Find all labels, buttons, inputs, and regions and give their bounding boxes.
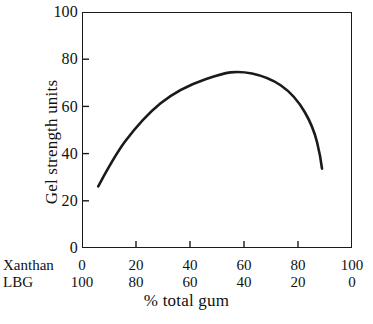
- x-axis-row-lbg: LBG 100 80 60 40 20 0: [0, 273, 373, 291]
- x-axis-title: % total gum: [0, 291, 373, 311]
- x-tick-lbg-60: 60: [167, 273, 213, 291]
- x-tick-lbg-80: 80: [113, 273, 159, 291]
- x-axis-row-label-xanthan: Xanthan: [3, 256, 54, 274]
- x-tick-xanthan-60: 60: [221, 256, 267, 274]
- axis-ticks-layer: [82, 12, 352, 248]
- chart-figure: 100 80 60 40 20 0 Gel strength units Xan…: [0, 0, 373, 324]
- y-axis-title-anchor: Gel strength units: [18, 20, 42, 230]
- x-tick-marks: [136, 241, 298, 248]
- x-tick-lbg-0: 0: [329, 273, 373, 291]
- y-tick-marks: [82, 59, 89, 201]
- data-curve: [98, 72, 322, 186]
- x-axis-row-xanthan: Xanthan 0 20 40 60 80 100: [0, 256, 373, 274]
- x-tick-xanthan-100: 100: [329, 256, 373, 274]
- x-tick-lbg-20: 20: [275, 273, 321, 291]
- x-tick-xanthan-40: 40: [167, 256, 213, 274]
- x-tick-xanthan-20: 20: [113, 256, 159, 274]
- x-axis-row-label-lbg: LBG: [3, 273, 33, 291]
- x-tick-xanthan-0: 0: [59, 256, 105, 274]
- x-tick-lbg-40: 40: [221, 273, 267, 291]
- x-tick-xanthan-80: 80: [275, 256, 321, 274]
- y-tick-label-100: 100: [40, 4, 78, 20]
- y-tick-label-0: 0: [40, 240, 78, 256]
- y-axis-title: Gel strength units: [42, 52, 62, 232]
- x-tick-lbg-100: 100: [59, 273, 105, 291]
